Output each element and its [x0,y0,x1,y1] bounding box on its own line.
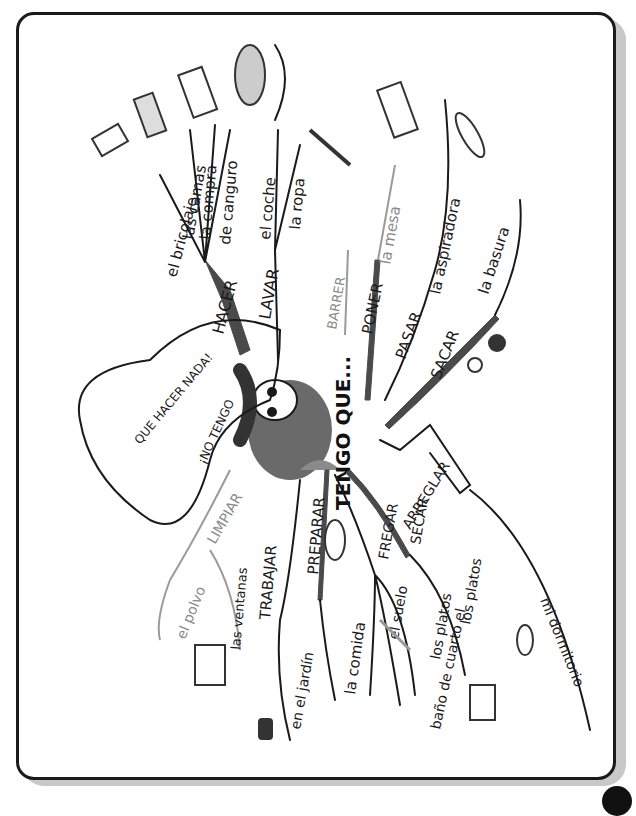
lavar-label: LAVAR [255,267,283,321]
bed-icon [134,93,166,137]
comida-label: la comida [341,621,369,696]
bathtub-icon [470,685,495,720]
mesa-label: la mesa [376,204,404,265]
shopping-cart-icon [178,67,217,118]
ropa-label: la ropa [286,177,308,230]
pot-icon [325,520,345,560]
trash-bag-icon [488,334,506,352]
polvo-label: el polvo [173,584,208,641]
stick-figure-icon [468,358,482,372]
center-title: TENGO QUE... [331,356,355,510]
aspiradora-label: la aspiradora [426,196,464,296]
limpiar-label: LIMPIAR [204,490,246,547]
poner-label: PONER [358,281,386,336]
jardin-label: en el jardín [287,650,316,730]
ventanas-label: las ventanas [228,567,250,651]
trabajar-label: TRABAJAR [256,544,281,621]
baby-stroller-icon [235,45,265,105]
table-icon [377,82,418,138]
bubble-line1: ¡NO TENGO [195,397,237,466]
center-illustration [240,370,340,480]
broom-icon [310,130,350,165]
vacuum-icon [451,109,490,160]
shovel-icon [258,718,273,740]
bubble-line2: QUE HACER NADA! [132,351,216,447]
dishes-icon [517,625,533,655]
toolbox-icon [92,124,128,156]
window-icon [195,645,225,685]
dormitorio-label: mi dormitorio [537,595,587,689]
clothesline-icon [275,45,285,120]
pasar-label: PASAR [392,309,426,361]
